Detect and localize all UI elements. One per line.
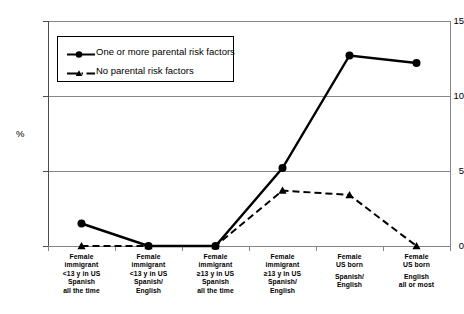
x-axis-label-3: Femaleimmigrant≥13 y in USSpanish/Englis… (249, 253, 316, 295)
x-tick-mark-2 (182, 246, 183, 251)
legend-label-1: No parental risk factors (96, 65, 194, 76)
x-tick-mark-1 (115, 246, 116, 251)
chart-figure: 15 10 5 0 % (0, 0, 464, 314)
gridline-5 (48, 171, 450, 172)
legend-label-0: One or more parental risk factors (96, 46, 235, 57)
legend-marker-circle-solid-line (66, 46, 96, 57)
x-tick-mark-6 (450, 246, 451, 251)
x-axis-label-1: Femaleimmigrant<13 y in USSpanish/Englis… (115, 253, 182, 295)
gridline-10 (48, 96, 450, 97)
x-tick-mark-5 (383, 246, 384, 251)
legend-item-one-or-more-parental-risk-factors: One or more parental risk factors (66, 45, 235, 57)
x-axis-category-labels: Femaleimmigrant<13 y in USSpanishall the… (48, 253, 450, 311)
x-tick-mark-3 (249, 246, 250, 251)
y-axis-title: % (16, 128, 24, 139)
x-axis-label-2: Femaleimmigrant≥13 y in USSpanishall the… (182, 253, 249, 295)
x-tick-mark-4 (316, 246, 317, 251)
y-axis-line (48, 21, 49, 247)
x-axis-label-5: FemaleUS bornEnglishall or most (383, 253, 450, 290)
gridline-15 (48, 21, 450, 22)
legend-marker-triangle-dashed-line (66, 65, 96, 76)
right-axis-line (450, 21, 451, 247)
x-axis-label-0: Femaleimmigrant<13 y in USSpanishall the… (48, 253, 115, 295)
x-axis-label-4: FemaleUS bornSpanish/English (316, 253, 383, 290)
legend: One or more parental risk factors No par… (57, 36, 234, 82)
legend-item-no-parental-risk-factors: No parental risk factors (66, 64, 194, 76)
x-tick-mark-0 (48, 246, 49, 251)
